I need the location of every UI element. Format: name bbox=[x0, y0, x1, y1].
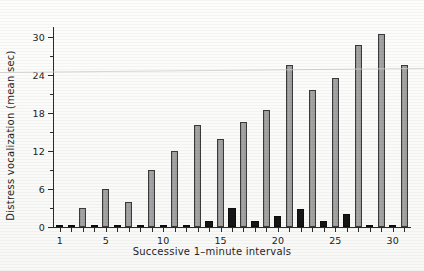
y-tick-major bbox=[48, 37, 53, 38]
x-tick bbox=[243, 227, 244, 232]
x-tick bbox=[289, 227, 290, 232]
bar-interval-31 bbox=[401, 65, 408, 227]
y-axis-line bbox=[53, 27, 54, 228]
x-tick bbox=[266, 227, 267, 232]
x-tick-label: 1 bbox=[57, 235, 63, 246]
x-tick bbox=[358, 227, 359, 232]
y-tick-minor bbox=[50, 94, 53, 95]
bar-interval-10 bbox=[160, 225, 167, 227]
bar-interval-9 bbox=[148, 170, 155, 227]
bar-interval-16 bbox=[228, 208, 235, 227]
y-tick-minor bbox=[50, 132, 53, 133]
x-tick bbox=[278, 227, 279, 232]
bar-interval-23 bbox=[309, 90, 316, 227]
x-tick bbox=[140, 227, 141, 232]
bar-interval-1 bbox=[56, 225, 63, 227]
x-tick bbox=[324, 227, 325, 232]
x-tick bbox=[60, 227, 61, 232]
y-tick-major bbox=[48, 75, 53, 76]
y-tick-minor bbox=[50, 208, 53, 209]
bar-interval-2 bbox=[68, 225, 75, 227]
y-tick-minor bbox=[50, 56, 53, 57]
x-tick bbox=[347, 227, 348, 232]
bar-interval-15 bbox=[217, 139, 224, 227]
x-tick bbox=[129, 227, 130, 232]
y-tick-minor bbox=[50, 170, 53, 171]
y-tick-major bbox=[48, 151, 53, 152]
bar-interval-18 bbox=[251, 221, 258, 227]
bar-interval-20 bbox=[274, 216, 281, 227]
bar-interval-22 bbox=[297, 209, 304, 227]
bar-interval-6 bbox=[114, 225, 121, 227]
y-axis-title-text: Distress vocalization (mean sec) bbox=[5, 50, 16, 220]
x-tick bbox=[232, 227, 233, 232]
x-tick bbox=[186, 227, 187, 232]
x-tick bbox=[381, 227, 382, 232]
x-tick bbox=[393, 227, 394, 232]
y-tick-label: 24 bbox=[33, 69, 46, 80]
x-tick-label: 10 bbox=[157, 235, 169, 246]
x-tick bbox=[335, 227, 336, 232]
y-tick-major bbox=[48, 227, 53, 228]
bar-interval-27 bbox=[355, 45, 362, 227]
x-tick-label: 30 bbox=[387, 235, 399, 246]
bar-interval-8 bbox=[137, 225, 144, 227]
x-tick bbox=[370, 227, 371, 232]
x-tick bbox=[117, 227, 118, 232]
x-tick bbox=[163, 227, 164, 232]
figure-bar-chart: Distress vocalization (mean sec) 0612182… bbox=[0, 0, 424, 271]
x-tick bbox=[221, 227, 222, 232]
x-tick-label: 15 bbox=[214, 235, 226, 246]
bar-interval-26 bbox=[343, 214, 350, 227]
x-tick bbox=[312, 227, 313, 232]
x-tick bbox=[404, 227, 405, 232]
bar-interval-24 bbox=[320, 221, 327, 227]
bar-interval-25 bbox=[332, 78, 339, 227]
bar-interval-4 bbox=[91, 225, 98, 227]
y-tick-major bbox=[48, 189, 53, 190]
bar-interval-30 bbox=[389, 225, 396, 227]
x-tick bbox=[255, 227, 256, 232]
y-tick-label: 0 bbox=[39, 222, 45, 233]
x-tick bbox=[209, 227, 210, 232]
plot-area: 0612182430 151015202530 bbox=[53, 27, 411, 227]
y-tick-label: 6 bbox=[39, 183, 45, 194]
y-tick-major bbox=[48, 113, 53, 114]
x-tick bbox=[83, 227, 84, 232]
bar-interval-29 bbox=[378, 34, 385, 227]
bar-interval-17 bbox=[240, 122, 247, 227]
bar-interval-11 bbox=[171, 151, 178, 227]
x-tick bbox=[94, 227, 95, 232]
x-tick bbox=[198, 227, 199, 232]
x-axis-title: Successive 1–minute intervals bbox=[0, 246, 424, 257]
bar-interval-28 bbox=[366, 225, 373, 227]
x-tick bbox=[175, 227, 176, 232]
x-tick-label: 25 bbox=[329, 235, 341, 246]
x-tick-label: 20 bbox=[272, 235, 284, 246]
bar-interval-12 bbox=[183, 225, 190, 227]
x-tick-label: 5 bbox=[103, 235, 109, 246]
y-tick-label: 12 bbox=[33, 145, 46, 156]
bar-interval-19 bbox=[263, 110, 270, 227]
x-tick bbox=[71, 227, 72, 232]
bar-interval-21 bbox=[286, 65, 293, 227]
y-axis-title: Distress vocalization (mean sec) bbox=[2, 0, 18, 271]
bar-interval-5 bbox=[102, 189, 109, 227]
bar-interval-7 bbox=[125, 202, 132, 227]
x-tick bbox=[152, 227, 153, 232]
y-tick-label: 30 bbox=[33, 31, 46, 42]
bar-interval-13 bbox=[194, 125, 201, 227]
bar-interval-14 bbox=[205, 221, 212, 227]
x-tick bbox=[106, 227, 107, 232]
y-tick-label: 18 bbox=[33, 107, 46, 118]
x-axis-title-text: Successive 1–minute intervals bbox=[133, 246, 292, 257]
bar-interval-3 bbox=[79, 208, 86, 227]
x-tick bbox=[301, 227, 302, 232]
